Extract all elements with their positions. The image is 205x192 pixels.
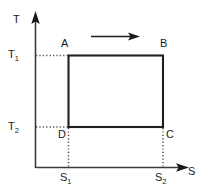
tick-label-t2-subscript: 2: [15, 126, 19, 135]
tick-label-t2-base: T: [8, 120, 15, 132]
tick-label-s2: S2: [155, 172, 167, 186]
tick-label-t1-base: T: [8, 48, 15, 60]
tick-label-s1-subscript: 1: [67, 177, 71, 186]
cycle-path-rectangle: [69, 56, 164, 128]
vertex-label-a: A: [61, 38, 68, 49]
temperature-axis-label: T: [13, 14, 20, 25]
vertex-label-d: D: [58, 129, 66, 140]
tick-label-s1: S1: [60, 172, 72, 186]
vertex-label-c: C: [166, 129, 174, 140]
tick-label-t1: T1: [8, 49, 19, 63]
ts-diagram: T S T1 T2 S1 S2 A B C D: [0, 0, 205, 192]
tick-label-s2-subscript: 2: [162, 177, 166, 186]
tick-label-t1-subscript: 1: [15, 54, 19, 63]
entropy-axis-label: S: [188, 166, 195, 177]
cycle-direction-arrow: [91, 32, 140, 40]
entropy-axis: [36, 163, 190, 171]
temperature-axis: [31, 11, 39, 168]
vertex-label-b: B: [160, 38, 167, 49]
diagram-canvas: [0, 0, 205, 192]
tick-label-t2: T2: [8, 121, 19, 135]
